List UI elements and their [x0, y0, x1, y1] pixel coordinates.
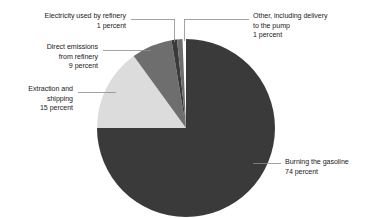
- label-burning-line2: 74 percent: [285, 168, 349, 178]
- label-burning-the-gasoline: Burning the gasoline 74 percent: [285, 158, 349, 177]
- label-electricity-used-by-refinery: Electricity used by refinery 1 percent: [45, 12, 126, 31]
- label-other-line2: to the pump: [253, 22, 327, 32]
- label-extraction-line1: Extraction and: [28, 85, 73, 95]
- label-extraction-and-shipping: Extraction and shipping 15 percent: [28, 85, 73, 114]
- label-extraction-line2: shipping: [28, 95, 73, 105]
- label-direct-emissions-line1: Direct emissions: [47, 43, 98, 53]
- label-direct-emissions-from-refinery: Direct emissions from refinery 9 percent: [47, 43, 98, 72]
- label-other-including-delivery: Other, including delivery to the pump 1 …: [253, 12, 327, 41]
- label-direct-emissions-line2: from refinery: [47, 53, 98, 63]
- label-burning-line1: Burning the gasoline: [285, 158, 349, 168]
- pie-chart: Electricity used by refinery 1 percent D…: [0, 0, 375, 218]
- label-extraction-line3: 15 percent: [28, 104, 73, 114]
- label-direct-emissions-line3: 9 percent: [47, 62, 98, 72]
- label-electricity-line2: 1 percent: [45, 22, 126, 32]
- leader-line-other: [184, 19, 249, 41]
- label-other-line3: 1 percent: [253, 31, 327, 41]
- leader-line-electricity: [131, 19, 175, 42]
- label-other-line1: Other, including delivery: [253, 12, 327, 22]
- label-electricity-line1: Electricity used by refinery: [45, 12, 126, 22]
